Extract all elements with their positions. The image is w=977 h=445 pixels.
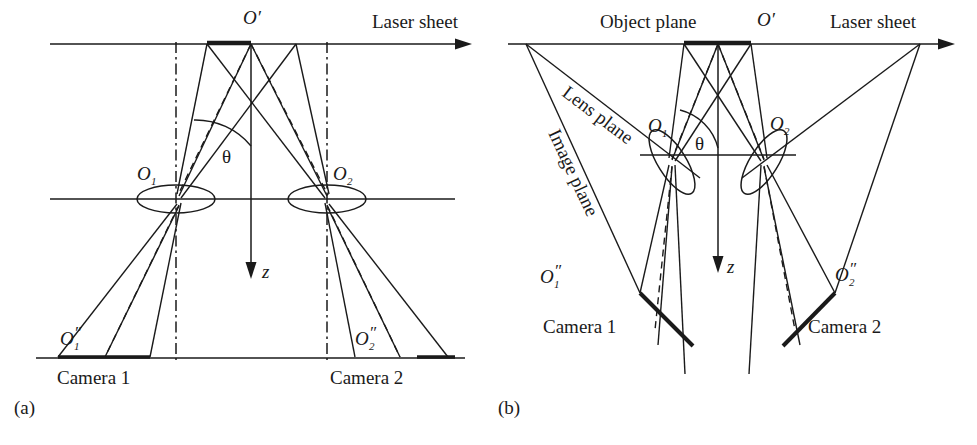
panel-b: Object plane O′ Laser sheet Lens plane I… — [498, 9, 955, 419]
label-camera-2-a: Camera 2 — [330, 367, 403, 388]
svg-text:1: 1 — [662, 127, 668, 139]
svg-text:O: O — [835, 264, 849, 285]
image-rays-right-a — [325, 203, 448, 357]
lens-plane-diagonal-right-b — [742, 44, 920, 178]
label-image-plane-b: Image plane — [544, 126, 602, 220]
object-rays-left-b — [669, 44, 751, 161]
laser-sheet-line-a — [50, 39, 472, 50]
object-rays-left-a — [177, 44, 296, 198]
panel-caption-b: (b) — [498, 397, 520, 419]
svg-text:O: O — [540, 266, 554, 287]
svg-text:″: ″ — [74, 323, 82, 342]
label-lens-1-a: O 1 — [137, 163, 157, 187]
svg-text:O: O — [355, 328, 369, 349]
image-plane-diagonal-right-b — [835, 44, 920, 293]
svg-text:″: ″ — [554, 261, 562, 280]
label-camera-1-b: Camera 1 — [543, 316, 616, 337]
z-axis-a — [246, 44, 257, 279]
image-sensor-segment-1-b — [640, 293, 693, 346]
label-lens-2-a: O 2 — [333, 163, 353, 187]
label-z-axis-b: z — [726, 256, 735, 277]
svg-text:O: O — [60, 328, 74, 349]
label-camera-1-a: Camera 1 — [57, 367, 130, 388]
object-rays-right-a — [207, 44, 329, 198]
label-lens-2-b: O 2 — [770, 113, 790, 137]
label-camera-2-b: Camera 2 — [808, 316, 881, 337]
label-z-axis-a: z — [261, 261, 270, 282]
label-laser-sheet-b: Laser sheet — [830, 11, 917, 32]
panel-caption-a: (a) — [14, 397, 35, 419]
image-rays-right-b — [749, 165, 835, 374]
label-object-plane-b: Object plane — [600, 11, 697, 32]
svg-text:″: ″ — [849, 259, 857, 278]
image-chief-ray-right-b — [764, 166, 795, 330]
panel-a: Laser sheet O′ O 1 O 2 O 1 ″ O 2 ″ θ z C… — [14, 7, 472, 419]
label-theta-b: θ — [695, 133, 704, 154]
label-object-point-a: O′ — [243, 7, 262, 28]
svg-text:O: O — [333, 163, 347, 184]
svg-text:O: O — [137, 163, 151, 184]
lens-plane-diagonal-left-b — [526, 44, 700, 178]
figure-canvas: Laser sheet O′ O 1 O 2 O 1 ″ O 2 ″ θ z C… — [0, 0, 977, 445]
object-chief-ray-right-a — [251, 44, 328, 195]
svg-text:1: 1 — [151, 175, 157, 187]
label-object-point-b: O′ — [757, 9, 776, 30]
label-laser-sheet-a: Laser sheet — [372, 11, 459, 32]
image-rays-left-b — [640, 165, 685, 374]
svg-text:2: 2 — [784, 125, 790, 137]
svg-text:O: O — [648, 115, 662, 136]
label-image-1-a: O 1 ″ — [60, 323, 82, 352]
label-image-2-b: O 2 ″ — [835, 259, 857, 288]
label-lens-1-b: O 1 — [648, 115, 668, 139]
z-axis-b — [713, 44, 724, 273]
label-image-1-b: O 1 ″ — [540, 261, 562, 290]
label-image-2-a: O 2 ″ — [355, 323, 377, 352]
svg-text:″: ″ — [369, 323, 377, 342]
svg-text:O: O — [770, 113, 784, 134]
svg-text:2: 2 — [347, 175, 353, 187]
label-theta-a: θ — [222, 146, 231, 167]
label-lens-plane-b: Lens plane — [559, 81, 638, 148]
